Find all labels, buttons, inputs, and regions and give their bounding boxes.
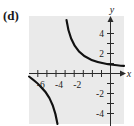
x-axis-label: x xyxy=(126,68,132,79)
graph-svg: -6 -4 -2 4 2 -2 -4 x y xyxy=(0,0,134,126)
plot-background xyxy=(29,16,124,124)
x-tick-label-neg6: -6 xyxy=(37,80,45,90)
x-tick-label-neg4: -4 xyxy=(55,80,63,90)
figure-panel: (d) xyxy=(0,0,134,126)
y-tick-label-neg2: -2 xyxy=(96,89,104,99)
y-tick-label-2: 2 xyxy=(99,49,104,59)
x-tick-label-neg2: -2 xyxy=(73,80,81,90)
plot-area: -6 -4 -2 4 2 -2 -4 x y xyxy=(0,0,134,126)
y-tick-label-4: 4 xyxy=(99,29,104,39)
y-axis-label: y xyxy=(109,4,115,15)
y-tick-label-neg4: -4 xyxy=(96,109,104,119)
